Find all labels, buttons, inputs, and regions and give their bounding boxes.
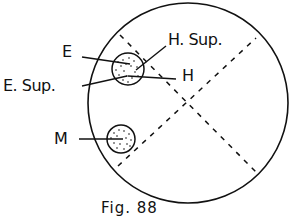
label-e: E [62, 44, 72, 60]
dashed-diagonal-descending [120, 35, 256, 172]
label-m: M [54, 131, 68, 147]
label-h: H [182, 68, 194, 84]
upper-stippled-circle [112, 53, 144, 85]
label-e-sup: E. Sup. [3, 78, 55, 94]
label-h-sup: H. Sup. [168, 32, 222, 48]
diagram-canvas [0, 0, 289, 224]
figure-caption: Fig. 88 [101, 199, 158, 217]
